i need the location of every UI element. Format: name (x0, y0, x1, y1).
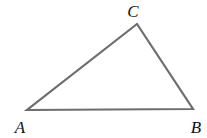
triangle-diagram: A B C (0, 0, 207, 138)
triangle-abc (27, 24, 193, 110)
vertex-label-c: C (127, 2, 139, 21)
vertex-label-b: B (191, 118, 202, 137)
vertex-label-a: A (14, 118, 26, 137)
